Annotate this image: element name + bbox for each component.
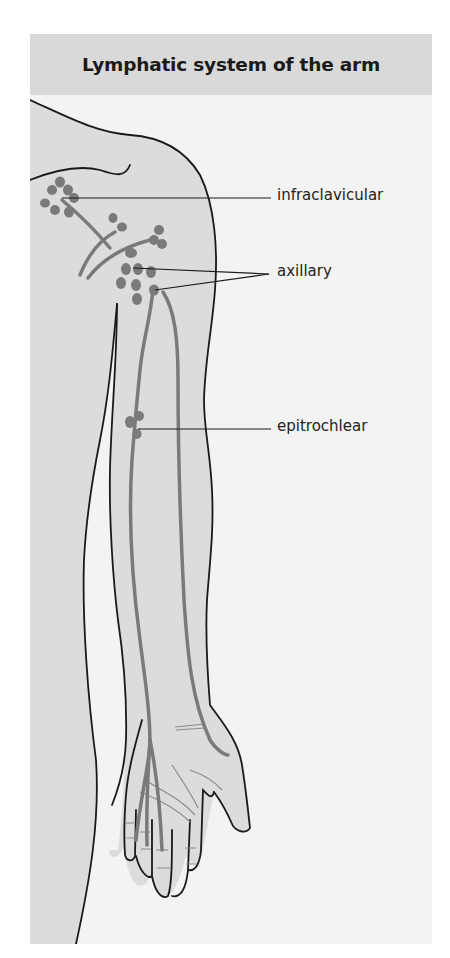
label-infraclavicular: infraclavicular (277, 186, 383, 204)
label-epitrochlear: epitrochlear (277, 417, 367, 435)
arm-illustration (0, 0, 450, 958)
label-axillary: axillary (277, 262, 332, 280)
